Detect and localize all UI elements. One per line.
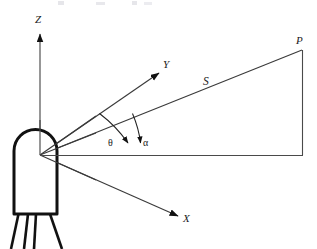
sensor-body	[14, 130, 57, 215]
diagram-canvas: Z Y X S P θ α	[0, 0, 317, 249]
sensor-leg	[50, 214, 62, 249]
z-axis-label: Z	[35, 13, 42, 25]
sensor-leg	[34, 214, 36, 249]
sensor-leg	[24, 214, 28, 249]
geometry-diagram: Z Y X S P θ α	[0, 0, 317, 249]
theta-arc	[100, 114, 129, 144]
sensor-legs	[11, 214, 62, 249]
x-axis-label: X	[182, 212, 191, 224]
y-axis-label: Y	[163, 58, 171, 70]
top-scan-artifact	[58, 1, 152, 5]
range-vector-label: S	[203, 75, 209, 87]
theta-angle-label: θ	[108, 137, 113, 148]
alpha-angle-label: α	[143, 137, 149, 148]
sensor-package	[11, 130, 62, 249]
target-point-label: P	[295, 34, 303, 46]
sensor-leg	[11, 214, 19, 249]
